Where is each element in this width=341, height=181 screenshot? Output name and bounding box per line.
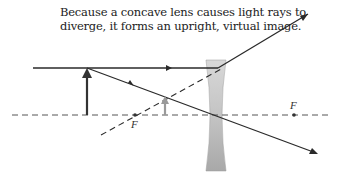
- central-ray: [87, 68, 316, 153]
- ray-arrowhead-icon: [300, 14, 308, 21]
- diverging-refracted-ray: [218, 14, 308, 68]
- focal-label-left: F: [130, 118, 138, 130]
- focal-point-left: [133, 113, 137, 117]
- ray-arrowhead-icon: [166, 65, 172, 71]
- virtual-ray-extension: [101, 68, 223, 135]
- ray-diagram: F F: [0, 0, 341, 181]
- focal-point-right: [292, 113, 296, 117]
- image-arrow-icon: [161, 96, 169, 104]
- ray-arrowhead-icon: [128, 80, 134, 86]
- focal-label-right: F: [289, 99, 297, 111]
